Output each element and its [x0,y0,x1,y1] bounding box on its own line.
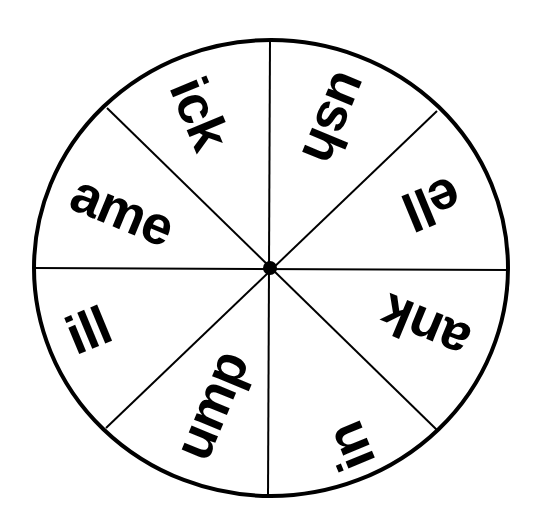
center-pivot [263,261,277,275]
spinner-wheel [0,0,538,529]
